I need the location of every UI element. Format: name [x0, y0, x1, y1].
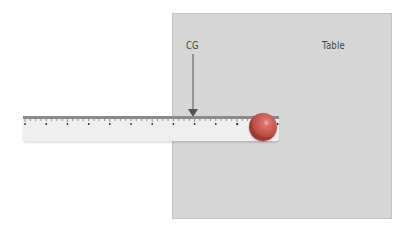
- cg-label: CG: [186, 40, 199, 51]
- table-label: Table: [322, 40, 345, 51]
- ball: [249, 113, 277, 141]
- ruler: [23, 116, 279, 141]
- cg-arrow-icon: [187, 54, 199, 118]
- ruler-ticks: [23, 116, 279, 141]
